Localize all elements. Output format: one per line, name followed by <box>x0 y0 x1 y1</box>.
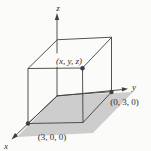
x-axis-label: x <box>3 141 8 151</box>
y-axis-label: y <box>131 82 136 92</box>
box-front-right-edge <box>83 68 84 123</box>
point-xyz-dot <box>80 66 84 70</box>
z-axis-label: z <box>55 3 60 13</box>
point-3-0-0-dot <box>26 121 30 125</box>
coordinate-diagram-svg: z y x (x, y, z) (0, 3, 0) (3, 0, 0) <box>0 0 151 151</box>
point-xyz-label: (x, y, z) <box>56 56 82 66</box>
figure-3d-coordinate-box: z y x (x, y, z) (0, 3, 0) (3, 0, 0) <box>0 0 151 151</box>
point-3-0-0-label: (3, 0, 0) <box>38 132 67 142</box>
point-0-3-0-label: (0, 3, 0) <box>110 97 139 107</box>
point-0-3-0-dot <box>109 90 113 94</box>
